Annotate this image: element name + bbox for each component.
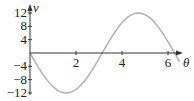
- x-tick-label: 6: [165, 55, 172, 70]
- y-tick-label: −12: [7, 85, 27, 100]
- y-axis-arrow-icon: [28, 4, 33, 11]
- x-axis-arrow-icon: [176, 51, 183, 56]
- x-tick-label: 2: [73, 55, 80, 70]
- y-tick-label: 4: [21, 32, 28, 47]
- x-tick-label: 4: [119, 55, 126, 70]
- chart: 2461284−4−8−12vθ: [0, 0, 194, 101]
- y-axis-label: v: [33, 0, 39, 15]
- x-axis-label: θ: [183, 55, 190, 70]
